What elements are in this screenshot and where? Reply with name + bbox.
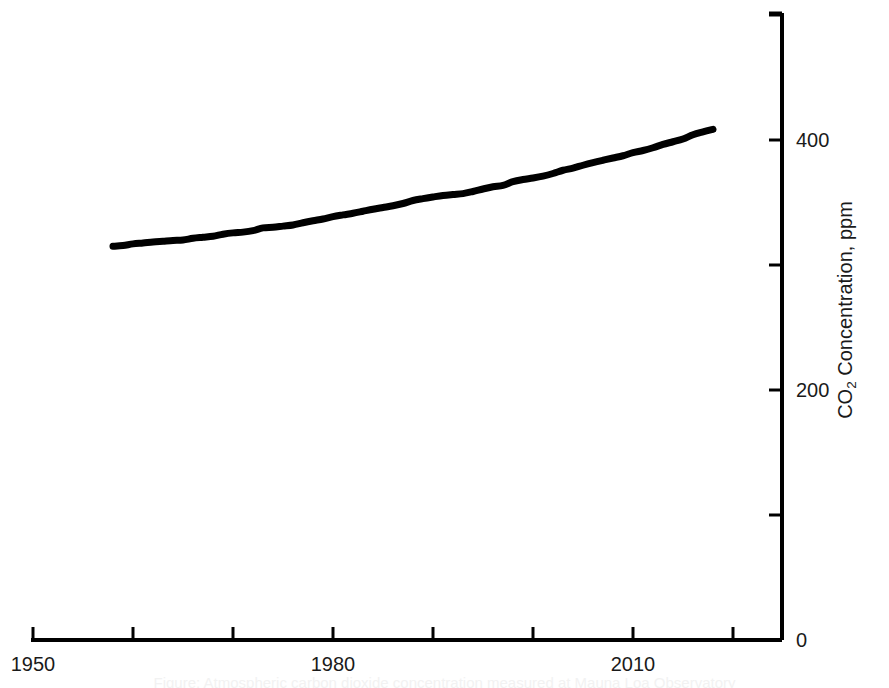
y-axis-title: CO2 Concentration, ppm — [835, 201, 855, 419]
y-tick-label-0: 0 — [796, 630, 807, 650]
chart-figure: 195019802010 0200400 CO2 Concentration, … — [0, 0, 889, 688]
axes-group — [31, 13, 782, 640]
chart-plot-area — [0, 0, 889, 688]
x-tick-label-2010: 2010 — [611, 654, 656, 674]
figure-caption: Figure: Atmospheric carbon dioxide conce… — [0, 676, 889, 688]
data-series-group — [113, 129, 713, 246]
x-tick-label-1950: 1950 — [11, 654, 56, 674]
series-line-0 — [113, 129, 713, 246]
y-tick-label-400: 400 — [796, 130, 829, 150]
y-tick-label-200: 200 — [796, 380, 829, 400]
x-tick-label-1980: 1980 — [311, 654, 356, 674]
